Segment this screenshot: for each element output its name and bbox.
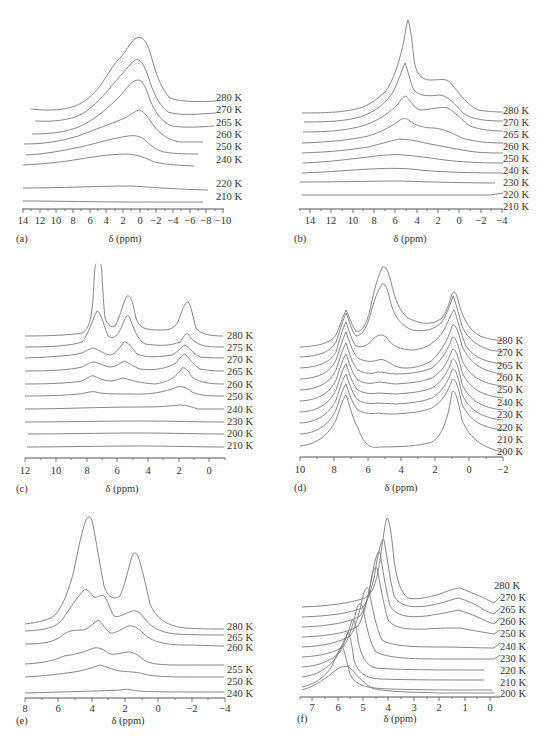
temp-label: 275 K (227, 342, 253, 353)
x-tick-label: 4 (103, 215, 109, 226)
temp-label: 200 K (500, 688, 526, 699)
x-tick-label: 0 (466, 464, 471, 475)
panel-a-traces (23, 38, 216, 202)
panel-c: 280 K 275 K 270 K 265 K 260 K 250 K 240 … (16, 264, 253, 495)
x-axis-label: δ (ppm) (105, 483, 139, 495)
temp-label: 220 K (500, 665, 526, 676)
panel-e-x-axis: 8 6 4 2 0 −2 −4 (22, 698, 231, 714)
temp-label: 280 K (497, 335, 523, 346)
panel-c-x-axis: 12 10 8 6 4 2 0 (20, 458, 225, 476)
x-axis-label: δ (ppm) (383, 713, 417, 725)
x-tick-label: −8 (200, 215, 211, 226)
temp-label: 260 K (227, 642, 253, 653)
x-tick-label: 8 (84, 465, 89, 476)
x-tick-label: 12 (326, 215, 337, 226)
temp-label: 280 K (227, 621, 253, 632)
panel-e-temperature-labels: 280 K 265 K 260 K 255 K 250 K 240 K (227, 621, 253, 699)
x-axis-label: δ (ppm) (111, 715, 145, 727)
x-tick-label: −6 (184, 215, 195, 226)
temp-label: 240 K (227, 404, 253, 415)
panel-d-x-axis: 10 8 6 4 2 0 −2 (295, 457, 509, 475)
x-tick-label: 10 (51, 215, 62, 226)
temp-label: 210 K (503, 201, 529, 212)
temp-label: 250 K (227, 391, 253, 402)
x-tick-label: 6 (87, 215, 92, 226)
panel-d: 280 K 270 K 265 K 260 K 250 K 240 K 230 … (294, 267, 523, 494)
x-tick-label: 2 (436, 702, 441, 713)
panel-e: 280 K 265 K 260 K 255 K 250 K 240 K 8 6 … (16, 517, 253, 727)
panel-b-traces (300, 20, 503, 195)
panel-a-temperature-labels: 280 K 270 K 265 K 260 K 250 K 240 K 220 … (216, 92, 242, 202)
panel-letter: (d) (294, 482, 307, 494)
x-tick-label: 6 (335, 702, 340, 713)
x-tick-label: 8 (371, 215, 376, 226)
x-tick-label: 12 (35, 215, 46, 226)
temp-label: 200 K (227, 428, 253, 439)
temp-label: 280 K (503, 105, 529, 116)
temp-label: 280 K (216, 92, 242, 103)
x-tick-label: 4 (398, 464, 404, 475)
temp-label: 265 K (503, 129, 529, 140)
x-tick-label: 0 (487, 702, 492, 713)
panel-a-x-axis: 14 12 10 8 6 4 2 0 −2 −4 −6 −8 −10 (18, 209, 231, 226)
panel-b: 280 K 270 K 265 K 260 K 250 K 240 K 230 … (294, 20, 529, 245)
panel-a: 280 K 270 K 265 K 260 K 250 K 240 K 220 … (16, 38, 242, 245)
x-tick-label: 14 (18, 215, 29, 226)
panel-e-traces (25, 517, 224, 693)
panel-letter: (e) (16, 715, 28, 727)
temp-label: 265 K (497, 360, 523, 371)
x-tick-label: 10 (295, 464, 306, 475)
temp-label: 210 K (216, 191, 242, 202)
x-tick-label: 5 (360, 702, 365, 713)
temp-label: 220 K (503, 189, 529, 200)
temp-label: 240 K (497, 397, 523, 408)
panel-f-x-axis: 7 6 5 4 3 2 1 0 (300, 697, 500, 713)
x-tick-label: −2 (497, 464, 508, 475)
x-tick-label: −2 (475, 215, 486, 226)
x-tick-label: 6 (114, 465, 119, 476)
temp-label: 265 K (216, 117, 242, 128)
x-tick-label: −4 (167, 215, 179, 226)
x-tick-label: 6 (365, 464, 370, 475)
x-tick-label: 4 (89, 703, 95, 714)
panel-letter: (a) (16, 233, 28, 245)
panel-c-temperature-labels: 280 K 275 K 270 K 265 K 260 K 250 K 240 … (227, 330, 253, 451)
x-tick-label: 12 (20, 465, 31, 476)
x-tick-label: 1 (462, 702, 467, 713)
temp-label: 270 K (227, 354, 253, 365)
x-tick-label: 7 (309, 702, 314, 713)
temp-label: 255 K (227, 664, 253, 675)
x-tick-label: 2 (435, 215, 440, 226)
temp-label: 250 K (227, 676, 253, 687)
temp-label: 220 K (497, 422, 523, 433)
temp-label: 260 K (503, 141, 529, 152)
x-tick-label: 4 (145, 465, 151, 476)
temp-label: 260 K (497, 372, 523, 383)
temp-label: 210 K (500, 677, 526, 688)
panel-d-temperature-labels: 280 K 270 K 265 K 260 K 250 K 240 K 230 … (497, 335, 523, 457)
temp-label: 250 K (503, 153, 529, 164)
x-tick-label: 6 (392, 215, 397, 226)
temp-label: 265 K (227, 366, 253, 377)
x-axis-label: δ (ppm) (108, 233, 142, 245)
x-tick-label: 2 (122, 703, 127, 714)
panel-letter: (f) (297, 713, 308, 725)
temp-label: 280 K (494, 580, 520, 591)
x-axis-label: δ (ppm) (384, 482, 418, 494)
temp-label: 230 K (497, 409, 523, 420)
x-tick-label: 0 (206, 465, 211, 476)
x-tick-label: 14 (305, 215, 316, 226)
x-tick-label: 8 (70, 215, 75, 226)
temp-label: 220 K (216, 178, 242, 189)
panel-f: 280 K 270 K 265 K 260 K 250 K 240 K 230 … (297, 518, 526, 725)
x-tick-label: 10 (348, 215, 359, 226)
nmr-figure: 280 K 270 K 265 K 260 K 250 K 240 K 220 … (0, 0, 544, 741)
temp-label: 210 K (227, 440, 253, 451)
temp-label: 230 K (227, 416, 253, 427)
x-tick-label: −2 (186, 703, 197, 714)
temp-label: 270 K (503, 117, 529, 128)
x-tick-label: 6 (55, 703, 60, 714)
x-tick-label: 10 (51, 465, 62, 476)
temp-label: 270 K (497, 347, 523, 358)
x-tick-label: 0 (456, 215, 461, 226)
